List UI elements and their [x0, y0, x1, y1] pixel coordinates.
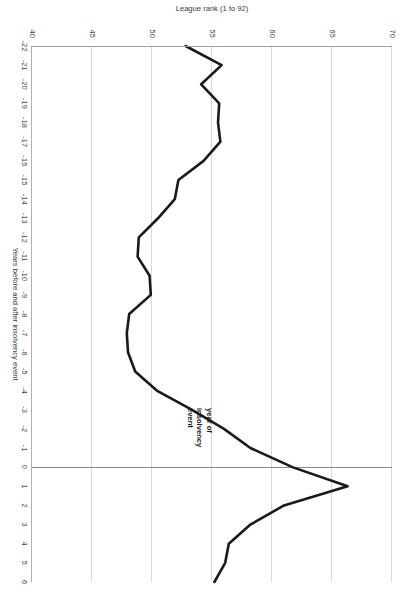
- x-tick--19: -19: [20, 98, 29, 109]
- x-tick--6: -6: [20, 349, 29, 356]
- x-tick-1: 1: [20, 484, 29, 488]
- x-tick-0: 0: [20, 465, 29, 469]
- x-tick--1: -1: [20, 445, 29, 452]
- x-tick-3: 3: [20, 522, 29, 526]
- y-axis-title: League rank (1 to 92): [176, 4, 249, 13]
- series-league-rank: [0, 0, 410, 595]
- x-tick--16: -16: [20, 155, 29, 166]
- x-tick--15: -15: [20, 175, 29, 186]
- x-tick--5: -5: [20, 368, 29, 375]
- x-tick--17: -17: [20, 136, 29, 147]
- annotation-year-of-insolvency-event: year of insolvency event: [185, 408, 214, 447]
- x-tick-4: 4: [20, 542, 29, 546]
- x-tick-5: 5: [20, 561, 29, 565]
- annotation-line-2: insolvency: [195, 408, 205, 447]
- x-tick-2: 2: [20, 503, 29, 507]
- chart-root: -22-21-20-19-18-17-16-15-14-13-12-11-10-…: [0, 0, 410, 595]
- y-tick-60: 60: [268, 20, 277, 38]
- x-tick--22: -22: [20, 41, 29, 52]
- x-tick--8: -8: [20, 311, 29, 318]
- x-tick--11: -11: [20, 251, 29, 261]
- x-tick--2: -2: [20, 425, 29, 432]
- y-tick-70: 70: [388, 20, 397, 38]
- value-axis-spine: [32, 46, 392, 47]
- annotation-line-1: year of: [204, 408, 214, 447]
- x-tick--9: -9: [20, 291, 29, 298]
- x-tick--4: -4: [20, 387, 29, 394]
- x-tick-6: 6: [20, 580, 29, 584]
- x-axis-title: Years before and after insolvency event: [11, 247, 20, 380]
- x-tick--12: -12: [20, 232, 29, 243]
- y-tick-65: 65: [328, 20, 337, 38]
- x-tick--3: -3: [20, 406, 29, 413]
- y-tick-40: 40: [28, 20, 37, 38]
- x-tick--10: -10: [20, 270, 29, 281]
- x-tick--20: -20: [20, 79, 29, 90]
- x-tick--13: -13: [20, 213, 29, 224]
- x-tick--21: -21: [20, 60, 29, 71]
- x-tick--7: -7: [20, 330, 29, 337]
- annotation-line-3: event: [185, 408, 195, 447]
- x-tick--18: -18: [20, 117, 29, 128]
- y-tick-45: 45: [88, 20, 97, 38]
- rotated-chart-figure: -22-21-20-19-18-17-16-15-14-13-12-11-10-…: [0, 0, 410, 595]
- x-tick--14: -14: [20, 194, 29, 205]
- y-tick-55: 55: [208, 20, 217, 38]
- y-tick-50: 50: [148, 20, 157, 38]
